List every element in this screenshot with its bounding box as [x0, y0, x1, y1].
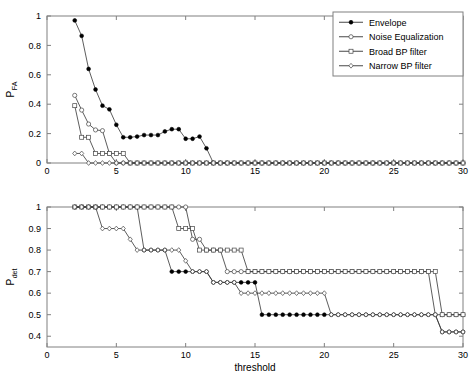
data-point-open-circle-icon	[239, 270, 243, 274]
series-noise-equalization	[73, 205, 465, 317]
data-point-open-diamond-icon	[274, 291, 278, 296]
data-point-open-square-icon	[302, 270, 306, 274]
data-point-filled-circle-icon	[101, 104, 105, 108]
data-point-open-square-icon	[211, 248, 215, 252]
data-point-filled-circle-icon	[142, 133, 146, 137]
data-point-filled-circle-icon	[128, 135, 132, 139]
data-point-open-square-icon	[315, 270, 319, 274]
data-point-open-square-icon	[114, 151, 118, 155]
data-point-open-square-icon	[357, 270, 361, 274]
data-point-open-square-icon	[218, 248, 222, 252]
series-line	[75, 95, 463, 163]
data-point-filled-circle-icon	[87, 67, 91, 71]
data-point-filled-circle-icon	[246, 280, 250, 284]
data-point-open-square-icon	[349, 49, 353, 53]
data-point-open-square-icon	[239, 248, 243, 252]
data-point-filled-circle-icon	[170, 270, 174, 274]
data-point-open-diamond-icon	[73, 151, 77, 156]
legend-label: Broad BP filter	[369, 47, 427, 57]
y-tick-label: 0.7	[28, 267, 41, 277]
legend-label: Noise Equalization	[369, 32, 444, 42]
data-point-open-diamond-icon	[100, 161, 104, 166]
data-point-open-diamond-icon	[399, 312, 403, 317]
x-axis-title: threshold	[234, 362, 275, 373]
data-point-filled-circle-icon	[184, 270, 188, 274]
data-point-open-circle-icon	[232, 270, 236, 274]
data-point-open-diamond-icon	[350, 312, 354, 317]
data-point-open-square-icon	[170, 205, 174, 209]
data-point-open-square-icon	[156, 205, 160, 209]
data-point-open-square-icon	[253, 270, 257, 274]
data-point-open-square-icon	[378, 270, 382, 274]
data-point-open-diamond-icon	[218, 280, 222, 285]
data-point-open-circle-icon	[349, 35, 353, 39]
data-point-filled-circle-icon	[94, 88, 98, 92]
data-point-open-circle-icon	[191, 237, 195, 241]
data-point-open-diamond-icon	[385, 312, 389, 317]
legend-label: Narrow BP filter	[369, 61, 432, 71]
data-point-open-diamond-icon	[371, 312, 375, 317]
data-point-open-circle-icon	[93, 128, 97, 132]
data-point-filled-circle-icon	[177, 270, 181, 274]
data-point-open-diamond-icon	[100, 226, 104, 231]
y-tick-label: 0.2	[28, 129, 41, 139]
data-point-open-circle-icon	[184, 205, 188, 209]
data-point-open-square-icon	[447, 313, 451, 317]
x-tick-label: 30	[458, 166, 468, 176]
data-point-filled-circle-icon	[184, 137, 188, 141]
data-point-filled-circle-icon	[135, 135, 139, 139]
data-point-filled-circle-icon	[191, 137, 195, 141]
data-point-open-square-icon	[191, 227, 195, 231]
x-tick-label: 30	[458, 350, 468, 360]
data-point-open-square-icon	[399, 270, 403, 274]
data-point-open-square-icon	[392, 270, 396, 274]
data-point-open-square-icon	[274, 270, 278, 274]
data-point-filled-circle-icon	[295, 313, 299, 317]
data-point-open-circle-icon	[100, 129, 104, 133]
data-point-open-circle-icon	[177, 205, 181, 209]
data-point-open-square-icon	[204, 248, 208, 252]
data-point-open-diamond-icon	[308, 291, 312, 296]
data-point-open-diamond-icon	[301, 291, 305, 296]
x-tick-label: 0	[44, 350, 49, 360]
data-point-open-square-icon	[87, 135, 91, 139]
data-point-open-diamond-icon	[343, 312, 347, 317]
y-tick-label: 0.6	[28, 288, 41, 298]
figure-container: 05101520253000.20.40.60.81PFA05101520253…	[0, 0, 475, 382]
data-point-open-square-icon	[461, 313, 465, 317]
data-point-filled-circle-icon	[288, 313, 292, 317]
data-point-open-square-icon	[184, 227, 188, 231]
data-point-filled-circle-icon	[274, 313, 278, 317]
data-point-filled-circle-icon	[253, 280, 257, 284]
data-point-open-square-icon	[385, 270, 389, 274]
data-point-open-square-icon	[350, 270, 354, 274]
x-tick-label: 10	[181, 350, 191, 360]
data-point-filled-circle-icon	[302, 313, 306, 317]
series-line	[75, 106, 463, 163]
x-tick-label: 10	[181, 166, 191, 176]
y-tick-label: 0.5	[28, 310, 41, 320]
data-point-open-square-icon	[100, 151, 104, 155]
y-tick-label: 0.4	[28, 99, 41, 109]
x-tick-label: 15	[250, 350, 260, 360]
data-point-open-square-icon	[426, 270, 430, 274]
data-point-open-square-icon	[225, 248, 229, 252]
series-line	[75, 207, 463, 315]
data-point-open-square-icon	[232, 248, 236, 252]
data-point-open-square-icon	[73, 104, 77, 108]
x-tick-label: 0	[44, 166, 49, 176]
x-tick-label: 15	[250, 166, 260, 176]
data-point-filled-circle-icon	[239, 280, 243, 284]
data-point-open-square-icon	[419, 270, 423, 274]
data-point-open-diamond-icon	[281, 291, 285, 296]
y-tick-label: 0.8	[28, 245, 41, 255]
data-point-open-diamond-icon	[322, 291, 326, 296]
data-point-open-diamond-icon	[315, 291, 319, 296]
data-point-filled-circle-icon	[163, 129, 167, 133]
y-tick-label: 1	[36, 202, 41, 212]
data-point-filled-circle-icon	[309, 313, 313, 317]
data-point-open-square-icon	[440, 313, 444, 317]
data-point-open-diamond-icon	[357, 312, 361, 317]
data-point-open-diamond-icon	[170, 248, 174, 253]
data-point-filled-circle-icon	[121, 135, 125, 139]
